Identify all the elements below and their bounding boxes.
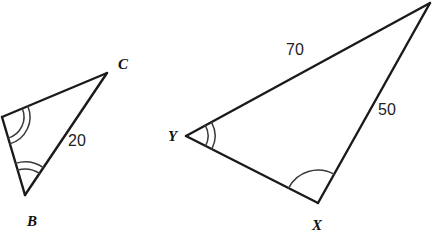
angle-mark-y (205, 122, 215, 149)
angle-arc (205, 125, 208, 145)
measure-label-20: 20 (68, 132, 86, 149)
measure-label-70: 70 (286, 41, 304, 58)
diagram-canvas: C B 20 Y X 70 50 (0, 0, 436, 235)
measure-label-50: 50 (378, 101, 396, 118)
angle-arc (16, 162, 44, 168)
angle-arc (211, 122, 215, 149)
angle-arc (18, 169, 40, 173)
vertex-label-c: C (118, 56, 129, 72)
vertex-label-b: B (26, 213, 37, 229)
segment-b-a (2, 117, 25, 195)
triangle-xyz: Y X 70 50 (168, 3, 430, 233)
vertex-label-y: Y (168, 128, 179, 144)
geometry-diagram: C B 20 Y X 70 50 (0, 0, 436, 235)
vertex-label-x: X (311, 217, 323, 233)
triangle-abc: C B 20 (2, 56, 129, 229)
